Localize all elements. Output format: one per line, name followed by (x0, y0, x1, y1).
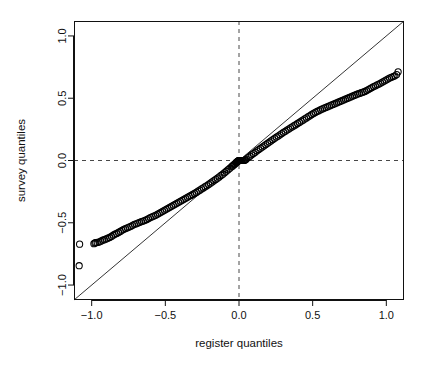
x-axis-title: register quantiles (195, 337, 283, 349)
x-tick-label: 0.5 (305, 309, 320, 321)
plot-panel (74, 21, 404, 300)
x-axis: −1.0−0.50.00.51.0 (81, 300, 394, 321)
y-tick-label: −0.5 (56, 212, 68, 234)
x-tick-label: −1.0 (81, 309, 103, 321)
y-axis-title: survey quantiles (15, 119, 27, 202)
x-tick-label: 0.0 (231, 309, 246, 321)
y-tick-label: 0.0 (56, 153, 68, 168)
x-tick-label: −0.5 (154, 309, 176, 321)
y-tick-label: 1.0 (56, 28, 68, 43)
y-tick-label: 0.5 (56, 91, 68, 106)
y-tick-label: −1.0 (56, 274, 68, 296)
x-tick-label: 1.0 (379, 309, 394, 321)
qq-plot-figure: −1.0−0.50.00.51.0 −1.0−0.50.00.51.0 regi… (0, 0, 425, 368)
plot-canvas: −1.0−0.50.00.51.0 −1.0−0.50.00.51.0 regi… (0, 0, 425, 368)
y-axis: −1.0−0.50.00.51.0 (56, 28, 74, 296)
